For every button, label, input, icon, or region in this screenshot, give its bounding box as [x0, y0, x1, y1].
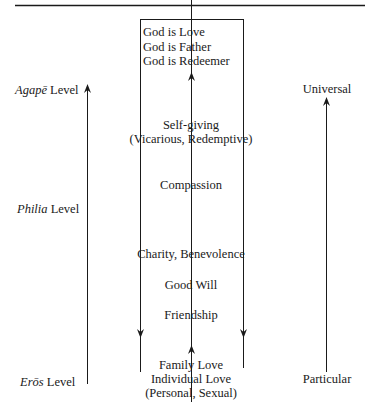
god-statement: God is Love: [143, 25, 230, 40]
friendship-label: Friendship: [164, 308, 217, 322]
level-suffix: Level: [48, 202, 80, 216]
eros-level-label: Erōs Level: [20, 375, 75, 389]
self-giving-note: (Vicarious, Redemptive): [130, 132, 253, 146]
self-giving-label: Self-giving: [163, 118, 219, 132]
philia-level-label: Philia Level: [17, 202, 79, 216]
level-suffix: Level: [44, 375, 76, 389]
agape-term: Agapē: [15, 83, 47, 97]
particular-label: Particular: [303, 372, 352, 386]
universal-label: Universal: [303, 82, 352, 96]
family-love-label: Family Love: [159, 358, 223, 372]
god-statement: God is Father: [143, 40, 230, 55]
agape-level-label: Agapē Level: [15, 83, 79, 97]
philia-term: Philia: [17, 202, 48, 216]
compassion-label: Compassion: [160, 178, 222, 192]
god-statement: God is Redeemer: [143, 54, 230, 69]
individual-love-note: (Personal, Sexual): [145, 386, 237, 400]
good-will-label: Good Will: [165, 278, 217, 292]
eros-term: Erōs: [20, 375, 44, 389]
level-suffix: Level: [47, 83, 79, 97]
god-statements: God is Love God is Father God is Redeeme…: [143, 25, 230, 69]
individual-love-label: Individual Love: [151, 372, 231, 386]
charity-label: Charity, Benevolence: [137, 247, 244, 261]
